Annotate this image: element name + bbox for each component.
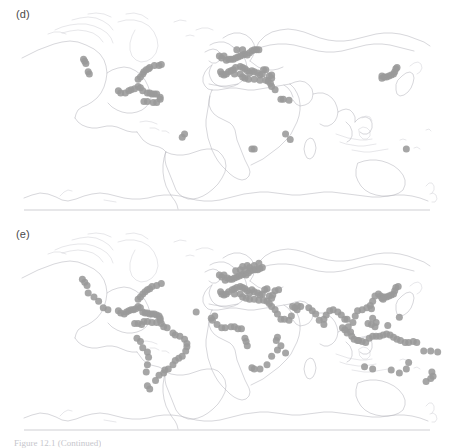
occurrence-marker: [413, 339, 420, 346]
occurrence-marker: [179, 134, 186, 141]
occurrence-marker: [158, 61, 165, 68]
map-panel-d: (d): [0, 0, 455, 220]
occurrence-marker: [396, 314, 403, 321]
occurrence-marker: [287, 136, 294, 143]
occurrence-marker: [378, 73, 385, 80]
occurrence-marker: [222, 324, 229, 331]
occurrence-marker: [272, 86, 279, 93]
occurrence-marker: [369, 365, 376, 372]
occurrence-marker: [164, 324, 171, 331]
coastlines-d: [22, 13, 437, 210]
occurrence-marker: [239, 46, 246, 53]
occurrence-marker: [263, 361, 270, 368]
occurrence-marker: [158, 280, 165, 287]
occurrence-marker: [257, 365, 264, 372]
occurrence-marker: [193, 308, 200, 315]
occurrence-marker: [286, 97, 293, 104]
occurrence-marker: [369, 315, 376, 322]
occurrence-marker: [434, 349, 441, 356]
occurrence-marker: [144, 98, 151, 105]
occurrence-marker: [403, 145, 410, 152]
occurrence-marker: [153, 99, 160, 106]
occurrence-marker: [255, 260, 262, 267]
occurrence-marker: [244, 342, 251, 349]
occurrence-markers-e: [79, 260, 441, 393]
occurrence-marker: [152, 377, 159, 384]
occurrence-marker: [144, 382, 151, 389]
occurrence-marker: [282, 131, 289, 138]
figure-caption: Figure 12.1 (Continued): [14, 438, 101, 448]
occurrence-marker: [312, 311, 319, 318]
occurrence-marker: [405, 359, 412, 366]
occurrence-marker: [380, 296, 387, 303]
occurrence-marker: [84, 282, 91, 289]
occurrence-marker: [394, 64, 401, 71]
occurrence-marker: [144, 361, 151, 368]
occurrence-marker: [104, 306, 111, 313]
occurrence-marker: [255, 46, 262, 53]
occurrence-marker: [251, 76, 258, 83]
panel-label-e: (e): [16, 228, 30, 240]
occurrence-marker: [86, 70, 93, 77]
occurrence-marker: [85, 289, 92, 296]
figure-container: (d): [0, 0, 455, 448]
occurrence-marker: [95, 298, 102, 305]
occurrence-marker: [211, 313, 218, 320]
occurrence-marker: [427, 347, 434, 354]
occurrence-marker: [280, 96, 287, 103]
occurrence-marker: [368, 305, 375, 312]
occurrence-marker: [288, 313, 295, 320]
occurrence-marker: [297, 303, 304, 310]
world-map-e: [0, 220, 455, 440]
occurrence-marker: [282, 350, 289, 357]
map-panel-e: (e): [0, 220, 455, 440]
occurrence-marker: [277, 342, 284, 349]
occurrence-marker: [82, 60, 89, 67]
occurrence-marker: [275, 286, 282, 293]
occurrence-marker: [244, 262, 251, 269]
occurrence-marker: [339, 324, 346, 331]
coastlines-e: [22, 233, 437, 430]
occurrence-marker: [388, 366, 395, 373]
occurrence-marker: [349, 319, 356, 326]
occurrence-marker: [365, 320, 372, 327]
occurrence-marker: [263, 285, 270, 292]
occurrence-marker: [371, 323, 378, 330]
occurrence-marker: [423, 378, 430, 385]
occurrence-marker: [403, 365, 410, 372]
occurrence-marker: [384, 322, 391, 329]
occurrence-marker: [262, 66, 269, 73]
occurrence-marker: [361, 363, 368, 370]
world-map-d: [0, 0, 455, 220]
occurrence-marker: [143, 369, 150, 376]
occurrence-marker: [137, 338, 144, 345]
occurrence-marker: [274, 334, 281, 341]
occurrence-marker: [354, 337, 361, 344]
occurrence-marker: [268, 353, 275, 360]
occurrence-marker: [268, 72, 275, 79]
occurrence-marker: [145, 354, 152, 361]
panel-label-d: (d): [16, 8, 30, 20]
occurrence-marker: [420, 347, 427, 354]
occurrence-marker: [251, 145, 258, 152]
occurrence-marker: [396, 370, 403, 377]
occurrence-marker: [238, 325, 245, 332]
occurrence-marker: [395, 283, 402, 290]
